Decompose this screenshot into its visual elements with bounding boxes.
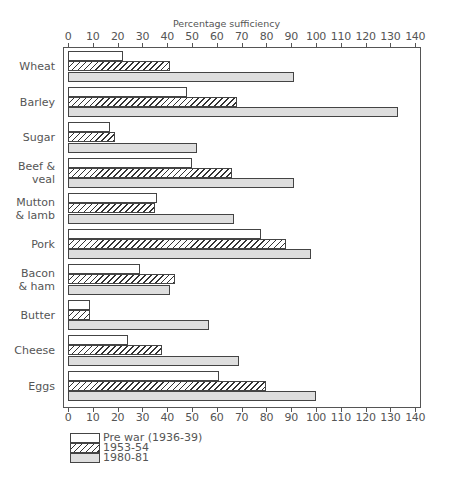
bar-mid (68, 203, 155, 213)
category-label: Sugar (23, 131, 55, 144)
x-tick-label: 70 (235, 30, 248, 43)
x-tick-label: 40 (160, 411, 173, 424)
x-tick-label: 10 (86, 30, 99, 43)
x-tick-label: 30 (136, 30, 149, 43)
bar-recent (68, 285, 170, 295)
category-label: Butter (21, 309, 55, 322)
legend-swatch-recent (70, 453, 100, 463)
x-tick-label: 20 (111, 30, 124, 43)
x-tick-label: 100 (306, 30, 326, 43)
x-tick-mark (242, 408, 243, 412)
x-tick-label: 0 (65, 30, 72, 43)
legend-label: 1980-81 (103, 453, 149, 463)
category-label-line: & lamb (15, 209, 55, 222)
category-label-line: Eggs (28, 380, 55, 393)
category-label: Bacon& ham (18, 267, 55, 293)
x-tick-mark (341, 408, 342, 412)
category-label-line: Wheat (19, 60, 55, 73)
category-label-line: veal (18, 173, 55, 186)
bar-mid (68, 97, 237, 107)
x-tick-label: 50 (185, 30, 198, 43)
bar-prewar (68, 335, 128, 345)
category-label-line: Bacon (18, 267, 55, 280)
legend: Pre war (1936-39)1953-541980-81 (70, 433, 202, 463)
bar-prewar (68, 51, 123, 61)
x-tick-label: 120 (356, 411, 376, 424)
bar-mid (68, 239, 286, 249)
x-tick-label: 100 (306, 411, 326, 424)
x-tick-mark (266, 408, 267, 412)
bar-prewar (68, 87, 187, 97)
category-label-line: Cheese (14, 344, 55, 357)
category-label: Pork (31, 238, 55, 251)
x-tick-label: 120 (356, 30, 376, 43)
x-tick-label: 110 (331, 30, 351, 43)
x-axis-title: Percentage sufficiency (0, 18, 453, 29)
x-tick-mark (167, 408, 168, 412)
category-label: Cheese (14, 344, 55, 357)
bar-recent (68, 178, 294, 188)
bar-prewar (68, 229, 261, 239)
category-label-line: Mutton (15, 196, 55, 209)
x-tick-mark (192, 408, 193, 412)
x-tick-mark (217, 408, 218, 412)
x-tick-mark (415, 408, 416, 412)
x-tick-label: 110 (331, 411, 351, 424)
category-label: Beef &veal (18, 160, 55, 186)
bar-prewar (68, 122, 110, 132)
bar-mid (68, 132, 115, 142)
bar-recent (68, 320, 209, 330)
bar-mid (68, 61, 170, 71)
category-label: Barley (20, 96, 55, 109)
bar-recent (68, 214, 234, 224)
x-tick-label: 0 (65, 411, 72, 424)
x-tick-label: 50 (185, 411, 198, 424)
legend-swatch-prewar (70, 433, 100, 443)
bar-prewar (68, 264, 140, 274)
x-tick-mark (142, 408, 143, 412)
x-tick-mark (118, 408, 119, 412)
bar-mid (68, 345, 162, 355)
bar-recent (68, 391, 316, 401)
x-tick-label: 10 (86, 411, 99, 424)
category-label-line: Sugar (23, 131, 55, 144)
category-label-line: Butter (21, 309, 55, 322)
bar-recent (68, 143, 197, 153)
x-tick-mark (68, 408, 69, 412)
x-tick-label: 60 (210, 411, 223, 424)
category-label: Eggs (28, 380, 55, 393)
legend-item: 1980-81 (70, 453, 202, 463)
x-tick-label: 30 (136, 411, 149, 424)
x-tick-label: 40 (160, 30, 173, 43)
x-tick-label: 70 (235, 411, 248, 424)
category-label-line: Barley (20, 96, 55, 109)
bar-recent (68, 356, 239, 366)
bar-prewar (68, 158, 192, 168)
x-tick-label: 20 (111, 411, 124, 424)
x-tick-label: 80 (260, 30, 273, 43)
bar-mid (68, 168, 232, 178)
x-tick-mark (390, 408, 391, 412)
x-tick-label: 140 (405, 411, 425, 424)
category-label-line: & ham (18, 280, 55, 293)
x-tick-label: 130 (380, 30, 400, 43)
x-tick-mark (366, 408, 367, 412)
bar-mid (68, 274, 175, 284)
bar-recent (68, 249, 311, 259)
x-tick-label: 90 (284, 30, 297, 43)
x-tick-mark (291, 408, 292, 412)
bar-prewar (68, 300, 90, 310)
x-tick-mark (316, 408, 317, 412)
x-tick-label: 80 (260, 411, 273, 424)
bar-prewar (68, 371, 219, 381)
x-tick-label: 130 (380, 411, 400, 424)
bar-recent (68, 72, 294, 82)
x-tick-mark (93, 408, 94, 412)
category-label-line: Pork (31, 238, 55, 251)
bar-prewar (68, 193, 157, 203)
bar-mid (68, 310, 90, 320)
category-label: Mutton& lamb (15, 196, 55, 222)
legend-swatch-mid (70, 443, 100, 453)
bar-recent (68, 107, 398, 117)
bar-mid (68, 381, 266, 391)
